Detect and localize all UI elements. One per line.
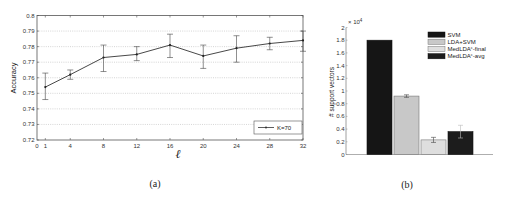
- accuracy-line-chart: 0.720.730.740.750.760.770.780.790.8 0148…: [9, 13, 307, 191]
- series-k70: [42, 31, 306, 99]
- legend-label: SVM: [448, 32, 461, 38]
- y-tick-label: 2: [341, 25, 345, 31]
- x-tick-label: 20: [200, 143, 207, 149]
- legend: SVMLDA+SVMMedLDAc-finalMedLDAc-avg: [428, 32, 486, 60]
- x-tick-label: 12: [133, 143, 140, 149]
- x-tick-label: 8: [102, 143, 106, 149]
- legend-swatch: [428, 46, 445, 51]
- x-tick-label: 0: [35, 143, 39, 149]
- data-point: [302, 39, 304, 41]
- y-tick-label: 0.75: [23, 90, 35, 96]
- legend-swatch: [428, 32, 445, 37]
- legend: K=70: [254, 121, 302, 134]
- x-tick-label: 24: [233, 143, 240, 149]
- x-tick-label: 4: [69, 143, 73, 149]
- data-point: [269, 42, 271, 44]
- legend-label-k70: K=70: [277, 125, 292, 131]
- multiplier-base: × 10: [348, 19, 361, 25]
- bar-svm: [367, 40, 392, 154]
- caption-b: (b): [401, 179, 413, 191]
- support-vectors-bar-chart: 00.20.40.60.811.21.41.61.82 × 104 # supp…: [328, 18, 493, 192]
- y-tick-label: 0.2: [336, 139, 345, 145]
- y-tick-label: 0.4: [336, 126, 345, 132]
- legend-swatch: [428, 39, 445, 44]
- x-axis-label: ℓ: [176, 147, 181, 161]
- y-tick-label: 1.8: [336, 37, 345, 43]
- legend-label: MedLDAc-avg: [448, 52, 485, 59]
- x-tick-label: 1: [44, 143, 48, 149]
- x-tick-label: 16: [167, 143, 174, 149]
- y-tick-label: 0.72: [23, 137, 35, 143]
- y-tick-label: 0.74: [23, 106, 35, 112]
- y-axis-label: # support vectors: [328, 66, 336, 117]
- y-tick-label: 0.76: [23, 75, 35, 81]
- data-point: [44, 86, 46, 88]
- y-tick-label: 0.73: [23, 121, 35, 127]
- legend-label: LDA+SVM: [448, 39, 476, 45]
- y-tick-label: 0: [341, 152, 345, 158]
- multiplier-exponent: 4: [360, 18, 363, 23]
- y-tick-label: 1.6: [336, 50, 345, 56]
- data-point: [235, 47, 237, 49]
- legend-point-marker: [265, 127, 267, 129]
- data-point: [136, 53, 138, 55]
- legend-label: MedLDAc-final: [448, 45, 486, 52]
- x-tick-label: 28: [266, 143, 273, 149]
- y-tick-label: 1.4: [336, 63, 345, 69]
- data-point: [202, 55, 204, 57]
- data-point: [69, 74, 71, 76]
- legend-swatch: [428, 54, 445, 59]
- data-point: [169, 44, 171, 46]
- y-tick-label: 0.8: [26, 13, 35, 19]
- y-axis-label: Accuracy: [9, 62, 18, 93]
- y-tick-label: 1.2: [336, 75, 345, 81]
- data-line: [45, 40, 303, 87]
- y-tick-label: 0.79: [23, 28, 35, 34]
- y-multiplier: × 104: [348, 18, 363, 26]
- caption-a: (a): [149, 178, 160, 190]
- data-point: [102, 56, 104, 58]
- y-tick-label: 0.8: [336, 101, 345, 107]
- y-tick-label: 0.77: [23, 59, 35, 65]
- y-tick-label: 1: [341, 88, 345, 94]
- y-tick-label: 0.78: [23, 44, 35, 50]
- x-tick-label: 32: [300, 143, 307, 149]
- y-tick-label: 0.6: [336, 113, 345, 119]
- bar-lda-svm: [394, 96, 419, 154]
- figure: 0.720.730.740.750.760.770.780.790.8 0148…: [0, 0, 509, 201]
